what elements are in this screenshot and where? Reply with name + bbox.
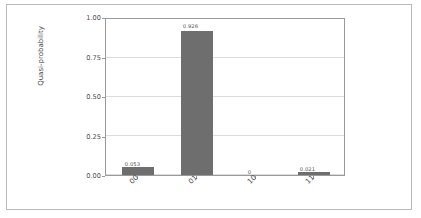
y-tick-label: 1.00 [86,14,101,22]
y-tick-label: 0.75 [86,54,101,62]
y-axis-title: Quasi-probability [37,0,45,116]
y-tick-mark [102,176,105,177]
quasi-probability-bar-chart: Quasi-probability 0.00 0.25 0.50 0.75 1.… [0,0,421,218]
bar-00[interactable] [122,167,154,175]
y-tick-label: 0.00 [86,172,101,180]
y-tick-label: 0.25 [86,133,101,141]
bar-value-label-11: 0.021 [280,166,335,172]
bar-value-label-10: 0 [222,169,277,175]
y-tick-label: 0.50 [86,93,101,101]
bar-01[interactable] [181,31,213,175]
plot-area [105,18,345,176]
bar-11[interactable] [298,172,330,175]
bar-value-label-01: 0.926 [163,23,218,29]
plot-inner [106,19,344,175]
gridline [106,135,344,136]
bar-value-label-00: 0.053 [105,161,160,167]
gridline [106,57,344,58]
y-axis-tick-labels: 0.00 0.25 0.50 0.75 1.00 [78,18,101,176]
gridline [106,96,344,97]
